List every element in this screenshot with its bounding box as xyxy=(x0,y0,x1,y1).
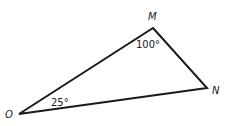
vertex-label-m: M xyxy=(148,11,157,22)
vertex-label-o: O xyxy=(5,109,13,120)
angle-label-m: 100° xyxy=(136,39,160,50)
triangle-diagram: M N O 100° 25° xyxy=(0,0,231,126)
vertex-label-n: N xyxy=(212,85,220,96)
angle-label-o: 25° xyxy=(51,97,69,108)
triangle-mno xyxy=(19,28,207,114)
